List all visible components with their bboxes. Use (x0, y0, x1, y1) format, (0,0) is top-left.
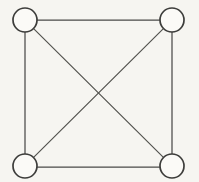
graph-diagram-canvas: Complete graph K4 (0, 0, 199, 182)
node-top-right[interactable] (160, 8, 184, 32)
graph-svg (0, 0, 199, 182)
node-bottom-left[interactable] (13, 154, 37, 178)
node-bottom-right[interactable] (160, 154, 184, 178)
node-top-left[interactable] (13, 8, 37, 32)
